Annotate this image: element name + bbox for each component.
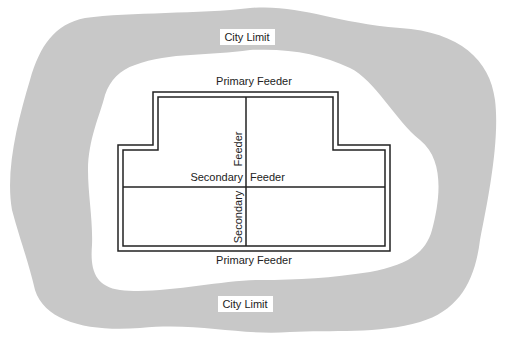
- city-limit-bottom-label: City Limit: [222, 298, 267, 310]
- secondary-feeder-horizontal-left-label: Secondary: [190, 171, 243, 183]
- secondary-feeder-vertical-lower-label: Secondary: [232, 190, 244, 243]
- secondary-feeder-vertical-upper-label: Feeder: [232, 131, 244, 166]
- city-limit-top-label: City Limit: [224, 31, 269, 43]
- primary-feeder-top-label: Primary Feeder: [216, 75, 292, 87]
- primary-feeder-bottom-label: Primary Feeder: [216, 254, 292, 266]
- feeder-diagram: City Limit Primary Feeder Secondary Feed…: [0, 0, 517, 358]
- secondary-feeder-horizontal-right-label: Feeder: [250, 171, 285, 183]
